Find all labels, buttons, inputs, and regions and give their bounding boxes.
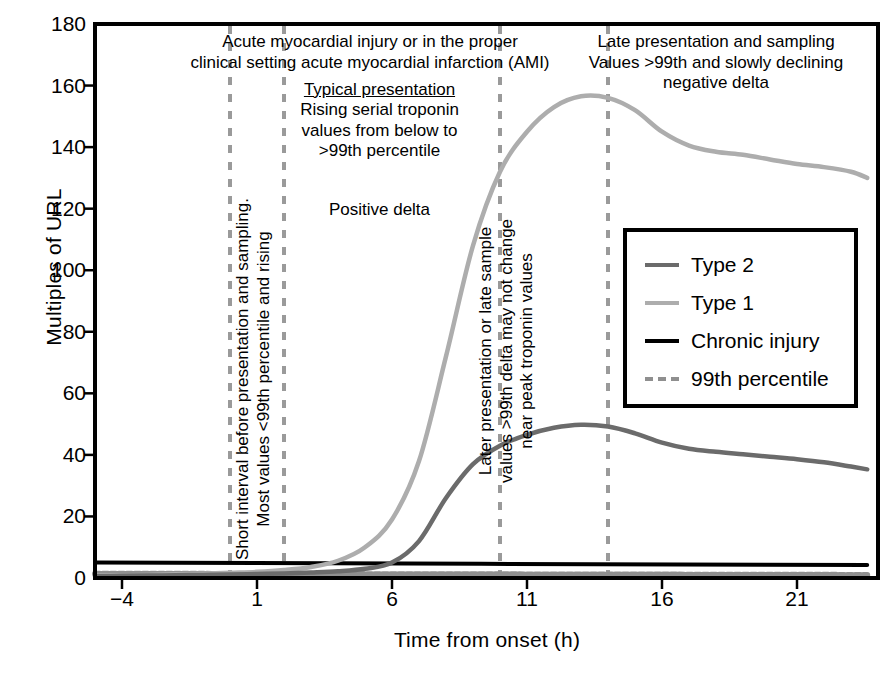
legend-item[interactable]: Type 1	[627, 284, 854, 322]
troponin-chart-figure: Multiples of URL 02040608010012014016018…	[0, 0, 893, 673]
legend-item[interactable]: Type 2	[627, 246, 854, 284]
short-interval-annotation: Short interval before presentation and s…	[233, 184, 277, 574]
legend-item-label: Type 2	[691, 253, 754, 277]
header-annotation: Acute myocardial injury or in the proper…	[150, 32, 590, 73]
legend-item-label: Type 1	[691, 291, 754, 315]
legend-item-label: 99th percentile	[691, 367, 829, 391]
legend-swatch-icon	[645, 301, 679, 305]
legend-swatch-icon	[645, 377, 679, 381]
typical-presentation-title: Typical presentation	[272, 80, 487, 101]
legend-item-label: Chronic injury	[691, 329, 819, 353]
legend-item[interactable]: 99th percentile	[627, 360, 854, 398]
typical-presentation-body: Rising serial troponin values from below…	[272, 100, 487, 162]
chart-legend: Type 2Type 1Chronic injury99th percentil…	[623, 228, 858, 408]
series-line-chronic-injury	[95, 563, 867, 565]
positive-delta-annotation: Positive delta	[272, 200, 487, 221]
later-presentation-annotation: Later presentation or late sample values…	[476, 186, 542, 516]
legend-swatch-icon	[645, 339, 679, 343]
late-presentation-annotation: Late presentation and sampling Values >9…	[556, 32, 876, 94]
legend-item[interactable]: Chronic injury	[627, 322, 854, 360]
legend-swatch-icon	[645, 263, 679, 267]
